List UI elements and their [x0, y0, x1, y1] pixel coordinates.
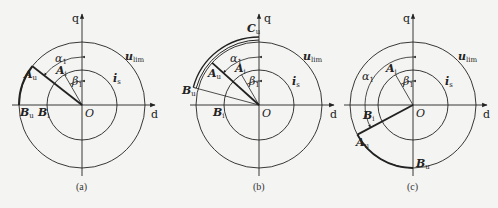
origin-label: O [85, 107, 94, 120]
ulim-label: ulim [125, 50, 144, 64]
is-label: is [445, 75, 453, 89]
is-label: is [292, 75, 300, 89]
q-label: q [264, 12, 271, 25]
origin-label: O [416, 107, 425, 120]
beta-label: β1 [402, 75, 414, 89]
alpha-label: α1 [362, 70, 374, 84]
alpha-label: α1 [230, 52, 242, 66]
Ai-label: Ai [385, 62, 398, 76]
ulim-label: ulim [458, 50, 477, 64]
Ai-label: Ai [55, 64, 68, 78]
arc-cap-Bu [193, 87, 196, 88]
caption-c: (c) [407, 181, 418, 193]
Bu-label: Bu [415, 157, 430, 171]
Bi-label: Bi [212, 106, 225, 120]
d-label: d [483, 108, 490, 121]
Bu-label: Bu [19, 106, 34, 120]
beta-label: β1 [248, 75, 260, 89]
d-label: d [330, 108, 337, 121]
is-label: is [113, 72, 121, 86]
ulim-label: ulim [303, 50, 322, 64]
origin-label: O [262, 107, 271, 120]
panel-a: q d O ulim is Au Ai Bu Bi α1 β1 (a) [12, 12, 158, 193]
Bi-label: Bi [37, 106, 50, 120]
panel-b: q d O ulim is Cu Au Ai Bu Bi α1 β1 (b) [181, 12, 337, 193]
caption-a: (a) [76, 181, 87, 193]
Au-label: Au [23, 68, 38, 82]
caption-b: (b) [253, 181, 265, 193]
diagram-canvas: q d O ulim is Au Ai Bu Bi α1 β1 (a) q d … [0, 0, 498, 208]
Bi-label: Bi [362, 109, 375, 123]
d-label: d [151, 108, 158, 121]
alpha-label: α1 [55, 52, 67, 66]
q-label: q [403, 12, 410, 25]
operating-arc [357, 135, 413, 168]
Au-label: Au [355, 136, 370, 150]
panel-c: q d O ulim is Ai Bi Au Bu α1 β1 (c) [344, 12, 490, 193]
beta-label: β1 [71, 75, 83, 89]
q-label: q [72, 12, 79, 25]
